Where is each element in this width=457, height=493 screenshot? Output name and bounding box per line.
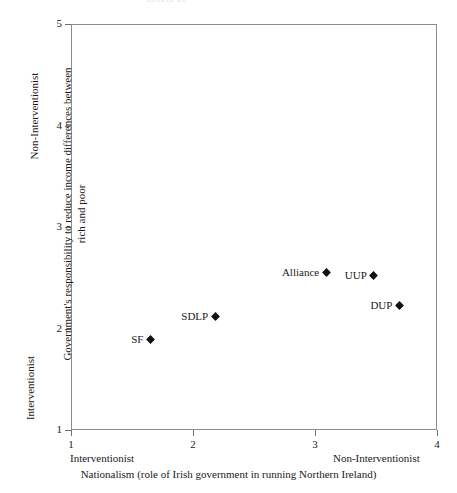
x-tick-mark	[315, 430, 316, 436]
plot-area	[71, 24, 437, 430]
data-point-label: SF	[131, 333, 143, 346]
x-axis-anchor-high: Non-Interventionist	[333, 452, 420, 464]
x-tick-label-4: 4	[425, 438, 449, 450]
x-tick-label-1: 1	[59, 438, 83, 450]
x-tick-label-3: 3	[303, 438, 327, 450]
x-tick-mark	[193, 430, 194, 436]
x-tick-mark	[71, 430, 72, 436]
y-axis-title: Government's responsibility to reduce in…	[60, 64, 88, 364]
cropped-title-text: xxxxxx xx	[146, 0, 346, 5]
y-tick-mark	[65, 24, 71, 25]
y-tick-label-5: 5	[40, 18, 62, 29]
y-tick-label-1: 1	[40, 424, 62, 435]
y-tick-label-2: 2	[40, 323, 62, 334]
x-tick-label-2: 2	[181, 438, 205, 450]
x-axis-anchor-low: Interventionist	[70, 452, 134, 464]
data-point-label: UUP	[345, 269, 367, 282]
data-point-label: DUP	[370, 299, 392, 312]
y-axis-anchor-low: Interventionist	[24, 328, 36, 448]
data-point-label: SDLP	[181, 310, 208, 323]
y-tick-label-4: 4	[40, 120, 62, 131]
x-axis-title: Nationalism (role of Irish government in…	[0, 468, 457, 480]
x-tick-mark	[437, 430, 438, 436]
data-point-label: Alliance	[282, 266, 319, 279]
y-tick-label-3: 3	[40, 221, 62, 232]
y-axis-anchor-high: Non-Interventionist	[28, 46, 40, 186]
